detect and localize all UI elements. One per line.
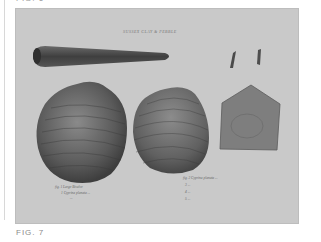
large-bivalve-middle (133, 87, 209, 173)
caption-left-line1: fig. 1 Large Bivalve (55, 185, 83, 189)
large-bivalve-left (37, 82, 127, 183)
figure-caption-top: FIG. 6 (16, 0, 44, 3)
fossil-plate-image: SUSSEX CLAY & PEBBLE fig. 1 Large Bivalv… (15, 8, 299, 224)
caption-right-line2: 3 ... (185, 183, 190, 187)
plate-title: SUSSEX CLAY & PEBBLE (123, 29, 177, 34)
fossil-illustration (15, 8, 299, 224)
fragment-slab-specimen (220, 85, 280, 150)
page-margin-line (4, 0, 5, 220)
caption-left-line3: ... (70, 196, 73, 200)
small-teeth-specimens (230, 49, 261, 68)
caption-right-line3: 4 ... (185, 190, 190, 194)
caption-right-line4: 5 ... (185, 197, 190, 201)
belemnite-specimen (33, 46, 169, 67)
caption-right-line1: fig. 2 Cyprina planata ... (183, 176, 218, 180)
caption-left-line2: 1 Cyprina planata ... (61, 191, 90, 195)
figure-caption-bottom: FIG. 7 (16, 228, 44, 237)
